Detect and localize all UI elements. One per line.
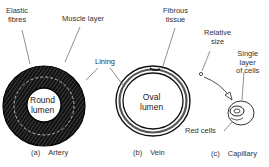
caption-capillary: (c)Capillary: [211, 149, 257, 158]
label-fibrous-tissue: Fibrous tissue: [163, 7, 188, 24]
label-muscle-layer: Muscle layer: [62, 15, 104, 24]
vessel-diagram: [0, 0, 269, 167]
label-round-lumen: Round lumen: [30, 96, 55, 115]
label-oval-lumen: Oval lumen: [140, 93, 163, 112]
label-single-layer-of-cells: Single layer of cells: [236, 50, 259, 76]
label-elastic-fibres: Elastic fibres: [6, 7, 28, 24]
label-red-cells: Red cells: [185, 127, 216, 136]
label-lining: Lining: [95, 58, 115, 67]
caption-vein: (b)Vein: [133, 148, 165, 157]
caption-artery: (a)Artery: [31, 148, 68, 157]
label-relative-size: Relative size: [204, 29, 231, 46]
capillary-cross-section: [199, 72, 254, 125]
